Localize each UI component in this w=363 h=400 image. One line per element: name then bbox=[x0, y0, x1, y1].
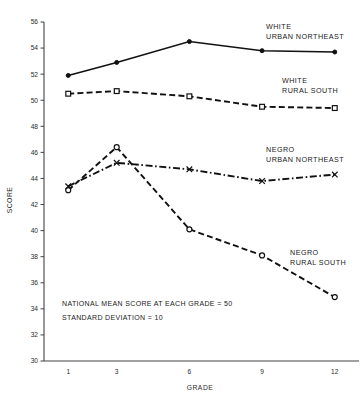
data-point bbox=[115, 60, 119, 64]
y-tick-label: 32 bbox=[31, 331, 39, 338]
y-tick-label: 36 bbox=[31, 279, 39, 286]
legend-label-2: NEGRO bbox=[266, 145, 295, 154]
y-tick-label: 44 bbox=[31, 175, 39, 182]
chart-annotation-1: STANDARD DEVIATION = 10 bbox=[62, 314, 163, 321]
y-tick-label: 30 bbox=[31, 357, 39, 364]
x-axis-title: GRADE bbox=[187, 384, 214, 391]
y-tick-label: 42 bbox=[31, 201, 39, 208]
data-point bbox=[332, 106, 337, 111]
legend-layer: WHITEURBAN NORTHEASTWHITERURAL SOUTHNEGR… bbox=[266, 22, 346, 267]
data-point bbox=[66, 73, 70, 77]
data-point bbox=[260, 104, 265, 109]
series-0 bbox=[66, 40, 337, 78]
data-point bbox=[333, 50, 337, 54]
y-tick-label: 56 bbox=[31, 18, 39, 25]
legend-label-0: URBAN NORTHEAST bbox=[266, 32, 344, 41]
chart-annotation-0: NATIONAL MEAN SCORE AT EACH GRADE = 50 bbox=[62, 300, 232, 307]
series-2 bbox=[65, 160, 337, 189]
y-tick-label: 34 bbox=[31, 305, 39, 312]
legend-label-2: URBAN NORTHEAST bbox=[266, 155, 344, 164]
legend-label-3: NEGRO bbox=[290, 248, 319, 257]
x-tick-label: 6 bbox=[188, 368, 192, 375]
legend-label-3: RURAL SOUTH bbox=[290, 258, 346, 267]
data-point bbox=[332, 295, 337, 300]
data-point bbox=[187, 40, 191, 44]
y-tick-label: 52 bbox=[31, 71, 39, 78]
x-tick-label: 1 bbox=[66, 368, 70, 375]
y-tick-label: 54 bbox=[31, 44, 39, 51]
data-point bbox=[114, 145, 119, 150]
legend-label-1: RURAL SOUTH bbox=[282, 86, 338, 95]
y-tick-label: 40 bbox=[31, 227, 39, 234]
data-point bbox=[114, 89, 119, 94]
y-axis-title: SCORE bbox=[6, 187, 13, 214]
data-point bbox=[260, 253, 265, 258]
x-tick-label: 3 bbox=[115, 368, 119, 375]
score-by-grade-chart: 3032343638404244464850525456 136912 WHIT… bbox=[0, 0, 363, 400]
legend-label-0: WHITE bbox=[266, 22, 291, 31]
chart-canvas: 3032343638404244464850525456 136912 WHIT… bbox=[0, 0, 363, 400]
y-tick-label: 50 bbox=[31, 97, 39, 104]
y-tick-label: 48 bbox=[31, 123, 39, 130]
y-tick-label: 46 bbox=[31, 149, 39, 156]
data-point bbox=[260, 49, 264, 53]
y-axis: 3032343638404244464850525456 bbox=[31, 18, 44, 364]
annotation-layer: NATIONAL MEAN SCORE AT EACH GRADE = 50ST… bbox=[62, 300, 232, 321]
x-axis: 136912 bbox=[44, 361, 359, 375]
data-point bbox=[187, 94, 192, 99]
y-tick-label: 38 bbox=[31, 253, 39, 260]
x-tick-label: 9 bbox=[260, 368, 264, 375]
legend-label-1: WHITE bbox=[282, 76, 307, 85]
x-tick-label: 12 bbox=[331, 368, 339, 375]
data-point bbox=[66, 91, 71, 96]
data-point bbox=[66, 188, 71, 193]
data-point bbox=[187, 227, 192, 232]
